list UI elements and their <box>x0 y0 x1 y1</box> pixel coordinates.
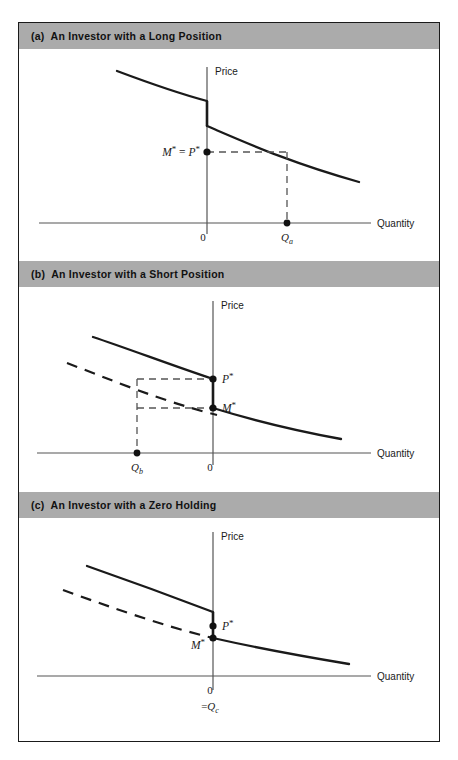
panel-b: (b)An Investor with a Short Position <box>19 261 439 492</box>
panel-b-origin-label: 0 <box>207 461 213 473</box>
panel-c-marker: (c) <box>31 499 45 511</box>
panel-c-origin-sub-q: Q <box>207 700 215 712</box>
panel-a-plot: Price Quantity 0 Qa M* = P* <box>19 49 439 261</box>
panel-c-label-mstar: M* <box>190 637 206 651</box>
panel-b-label-pstar: P* <box>221 371 234 385</box>
panel-c-origin-sub-label: =Qc <box>201 700 219 715</box>
panel-c-title: An Investor with a Zero Holding <box>51 499 217 511</box>
panel-b-header: (b)An Investor with a Short Position <box>19 261 439 287</box>
panel-a-demand-curve-right <box>207 126 359 182</box>
panel-c-origin-sub-sub: c <box>215 706 219 715</box>
panel-b-label-p-star: * <box>229 371 234 381</box>
panel-b-header-text: (b)An Investor with a Short Position <box>31 268 225 280</box>
panel-a-tick-sub: a <box>289 237 293 246</box>
panel-b-marginal-valuation-curve <box>67 363 217 415</box>
panel-b-tick-sub: b <box>139 467 143 476</box>
panel-b-point-pstar <box>209 375 216 382</box>
panel-a-tick-label-qa: Qa <box>281 231 293 246</box>
panel-a-label-p-star: * <box>196 144 201 154</box>
panel-c-x-axis-label: Quantity <box>377 671 414 682</box>
panel-c-point-mstar <box>209 634 216 641</box>
panel-b-marker: (b) <box>31 268 45 280</box>
panel-a-demand-curve-left <box>117 71 207 101</box>
panel-a-y-axis-label: Price <box>215 66 238 77</box>
panel-b-point-qb <box>134 450 141 457</box>
figure-frame: (a)An Investor with a Long Position <box>18 22 440 742</box>
panel-b-tick-label-qb: Qb <box>131 461 143 476</box>
panel-b-x-axis-label: Quantity <box>377 448 414 459</box>
panel-c-y-axis-label: Price <box>221 531 244 542</box>
panel-b-title: An Investor with a Short Position <box>51 268 224 280</box>
panel-a: (a)An Investor with a Long Position <box>19 23 439 261</box>
panel-c-plot: Price Quantity 0 =Qc P* M* <box>19 518 439 733</box>
panel-a-point-mstar-pstar <box>203 148 210 155</box>
panel-a-label-eq: = <box>176 146 188 158</box>
panel-a-label-p: P <box>187 146 195 158</box>
panel-c-label-p: P <box>221 620 229 632</box>
panel-c: (c)An Investor with a Zero Holding <box>19 492 439 733</box>
panel-c-point-pstar <box>209 622 216 629</box>
panel-b-label-m-star: * <box>232 400 237 410</box>
panel-c-chart-svg: Price Quantity 0 =Qc P* M* <box>19 518 439 733</box>
panel-a-label-mstar-pstar: M* = P* <box>161 144 200 158</box>
panel-a-origin-label: 0 <box>200 231 206 243</box>
panel-b-label-mstar: M* <box>221 400 237 414</box>
panel-c-demand-curve-right <box>213 638 349 664</box>
panel-b-label-p: P <box>221 373 229 385</box>
panel-c-label-m-star: * <box>201 637 206 647</box>
panel-b-point-mstar <box>209 404 216 411</box>
panel-b-plot: Price Quantity 0 Qb P* M* <box>19 287 439 492</box>
panel-a-point-qa <box>284 220 291 227</box>
panel-c-label-pstar: P* <box>221 618 234 632</box>
panel-a-chart-svg: Price Quantity 0 Qa M* = P* <box>19 49 439 261</box>
panel-c-header-text: (c)An Investor with a Zero Holding <box>31 499 216 511</box>
panel-c-header: (c)An Investor with a Zero Holding <box>19 492 439 518</box>
panel-b-tick-q: Q <box>131 461 139 473</box>
panel-a-tick-q: Q <box>281 231 289 243</box>
panel-b-y-axis-label: Price <box>221 300 244 311</box>
panel-a-marker: (a) <box>31 30 45 42</box>
panel-a-title: An Investor with a Long Position <box>51 30 222 42</box>
panel-c-marginal-valuation-curve <box>63 590 213 638</box>
panel-a-header-text: (a)An Investor with a Long Position <box>31 30 222 42</box>
panel-b-chart-svg: Price Quantity 0 Qb P* M* <box>19 287 439 492</box>
panel-a-header: (a)An Investor with a Long Position <box>19 23 439 49</box>
panel-b-demand-curve-left <box>93 337 213 379</box>
panel-a-x-axis-label: Quantity <box>377 218 414 229</box>
panel-c-label-p-star: * <box>229 618 234 628</box>
panel-c-origin-label: 0 <box>207 684 213 696</box>
panel-b-demand-curve-right <box>213 408 341 439</box>
